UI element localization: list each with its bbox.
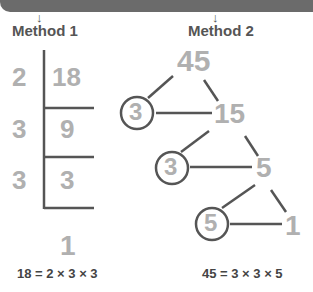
dividend: 9 bbox=[60, 116, 74, 142]
tree-node-root: 45 bbox=[177, 46, 210, 76]
divisor: 3 bbox=[12, 167, 26, 193]
prime-factor: 3 bbox=[129, 100, 142, 124]
method-2-equation: 45 = 3 × 3 × 5 bbox=[202, 266, 283, 281]
remainder: 1 bbox=[60, 232, 76, 260]
diagram-lines bbox=[0, 0, 313, 292]
tree-node: 5 bbox=[256, 154, 272, 182]
divisor: 3 bbox=[12, 116, 26, 142]
prime-factor: 3 bbox=[164, 155, 177, 179]
divisor: 2 bbox=[12, 64, 26, 90]
dividend: 18 bbox=[52, 64, 81, 90]
tree-node: 15 bbox=[214, 100, 245, 128]
tree-node: 1 bbox=[285, 212, 301, 240]
dividend: 3 bbox=[60, 167, 74, 193]
prime-factor: 5 bbox=[204, 211, 217, 235]
method-1-equation: 18 = 2 × 3 × 3 bbox=[17, 266, 98, 281]
